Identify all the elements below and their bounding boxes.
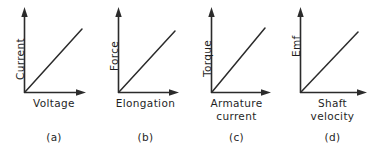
y-axis-arrowhead-a (21, 7, 27, 17)
panel-caption-a: (a) (14, 131, 94, 144)
panel-a: Current Voltage (a) (0, 0, 94, 153)
x-axis-label-d: Shaft velocity (291, 97, 374, 122)
data-series-line-c (212, 28, 265, 92)
x-axis-label-c: Armature current (195, 97, 278, 122)
y-axis-arrowhead-c (208, 7, 214, 17)
panel-caption-d: (d) (291, 131, 374, 144)
x-axis-label-b: Elongation (104, 97, 187, 110)
data-series-line-a (25, 29, 82, 92)
panel-b: Force Elongation (b) (94, 0, 187, 153)
data-series-line-d (301, 32, 358, 92)
panel-c: Torque Armature current (c) (187, 0, 278, 153)
y-axis-label-b: Force (109, 41, 120, 71)
y-axis-label-c: Torque (202, 40, 213, 77)
y-axis-arrowhead-d (297, 7, 303, 17)
x-axis-arrowhead-b (169, 89, 179, 95)
x-axis-arrowhead-a (76, 89, 86, 95)
figure-linear-relationships: Current Voltage (a) Force Elongation (b)… (0, 0, 383, 153)
y-axis-label-d: Emf (291, 35, 302, 57)
y-axis-label-a: Current (15, 38, 26, 80)
panel-caption-b: (b) (104, 131, 187, 144)
panel-caption-c: (c) (195, 131, 278, 144)
x-axis-label-a: Voltage (14, 97, 94, 110)
x-axis-arrowhead-d (357, 89, 367, 95)
panel-d: Emf Shaft velocity (d) (278, 0, 383, 153)
y-axis-arrowhead-b (115, 7, 121, 17)
data-series-line-b (119, 31, 175, 92)
x-axis-arrowhead-c (261, 89, 271, 95)
